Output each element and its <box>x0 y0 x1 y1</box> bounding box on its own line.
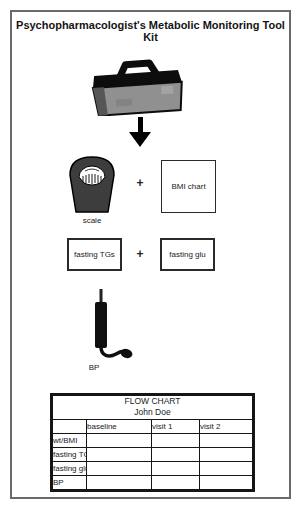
bp-label: BP <box>82 363 106 372</box>
table-cell <box>87 447 152 461</box>
down-arrow-icon <box>127 117 153 148</box>
table-cell <box>87 475 152 490</box>
table-cell <box>152 461 200 475</box>
table-cell <box>152 475 200 490</box>
bmi-chart-box: BMI chart <box>161 160 216 213</box>
table-row-wt-bmi: wt/BMI <box>52 433 254 447</box>
scale-icon <box>67 155 117 214</box>
figure-canvas: Psychopharmacologist's Metabolic Monitor… <box>0 0 301 511</box>
column-header-visit-2: visit 2 <box>200 419 254 433</box>
bmi-chart-label: BMI chart <box>171 182 205 191</box>
row-label-fasting-glu: fasting glu <box>52 461 87 475</box>
row-label-wt-bmi: wt/BMI <box>52 433 87 447</box>
table-cell <box>152 433 200 447</box>
fasting-glu-label: fasting glu <box>169 250 205 259</box>
row-label-bp: BP <box>52 475 87 490</box>
flow-chart-title-cell: FLOW CHART John Doe <box>52 395 254 420</box>
column-header-visit-1: visit 1 <box>152 419 200 433</box>
column-header-baseline: baseline <box>87 419 152 433</box>
table-cell <box>200 461 254 475</box>
table-cell <box>200 447 254 461</box>
scale-label: scale <box>67 216 117 225</box>
row-label-fasting-tgs: fasting TGs <box>52 447 87 461</box>
plus-sign-1: + <box>130 176 150 190</box>
flow-chart-table: FLOW CHART John Doe baseline visit 1 vis… <box>50 393 255 492</box>
table-row-fasting-glu: fasting glu <box>52 461 254 475</box>
patient-name: John Doe <box>53 407 252 418</box>
fasting-tgs-box: fasting TGs <box>67 238 122 271</box>
column-header-row: baseline visit 1 visit 2 <box>52 419 254 433</box>
plus-sign-2: + <box>130 247 150 261</box>
flow-chart-title: FLOW CHART <box>53 396 252 407</box>
table-cell <box>87 433 152 447</box>
table-row-bp: BP <box>52 475 254 490</box>
bp-monitor-icon <box>87 289 133 361</box>
table-cell <box>200 475 254 490</box>
fasting-tgs-label: fasting TGs <box>74 250 115 259</box>
table-header-band: FLOW CHART John Doe <box>52 395 254 420</box>
table-cell <box>152 447 200 461</box>
figure-page: Psychopharmacologist's Metabolic Monitor… <box>10 10 291 499</box>
table-cell <box>200 433 254 447</box>
toolbox-icon <box>85 58 189 116</box>
corner-cell <box>52 419 87 433</box>
fasting-glu-box: fasting glu <box>160 238 215 271</box>
page-title: Psychopharmacologist's Metabolic Monitor… <box>12 19 289 43</box>
table-cell <box>87 461 152 475</box>
table-row-fasting-tgs: fasting TGs <box>52 447 254 461</box>
